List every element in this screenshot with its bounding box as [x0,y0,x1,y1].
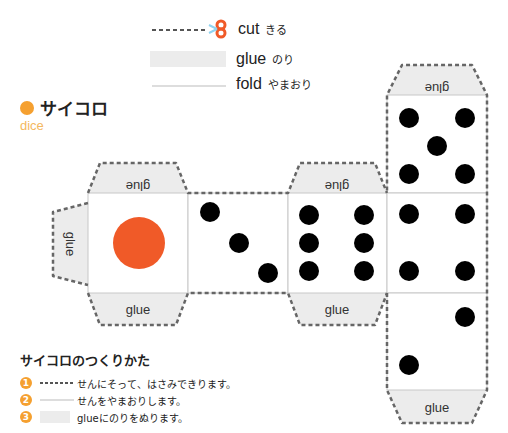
instructions-title: サイコロのつくりかた [20,350,150,369]
step-number: 1 [20,377,32,389]
glue-label: glue [425,81,450,96]
dashed-line-icon [40,380,74,386]
step-number: 2 [20,394,32,406]
step-text: せんをやまおりします。 [77,393,186,408]
step-2: 2 せんをやまおりします。 [20,393,186,407]
glue-label: glue [325,179,350,194]
glue-label: glue [63,232,78,257]
glue-label: glue [325,302,350,317]
step-text: glueにのりをぬります。 [77,410,188,425]
step-text: せんにそって、はさみできります。 [77,376,236,391]
step-3: 3 glueにのりをぬります。 [20,410,188,424]
step-number: 3 [20,411,32,423]
face-1-pip [113,217,165,269]
step-1: 1 せんにそって、はさみできります。 [20,376,236,390]
glue-label: glue [126,179,151,194]
fold-line-icon [40,397,74,403]
glue-label: glue [126,302,151,317]
glue-swatch [40,411,74,423]
glue-label: glue [425,400,450,415]
